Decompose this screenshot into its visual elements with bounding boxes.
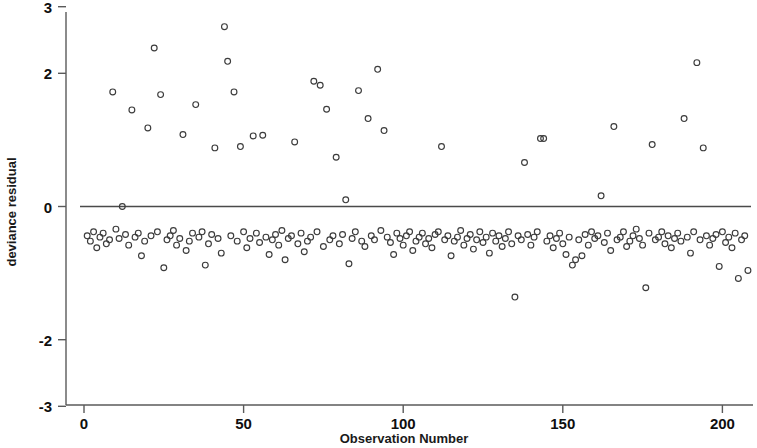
y-tick-label: -3	[39, 398, 52, 415]
x-tick-label: 200	[710, 415, 735, 432]
x-tick-label: 0	[80, 415, 88, 432]
scatter-plot-canvas: 320-2-3 050100150200 deviance residual O…	[0, 0, 757, 448]
plot-background	[0, 0, 757, 448]
x-axis-label: Observation Number	[340, 431, 469, 446]
x-tick-label: 150	[550, 415, 575, 432]
y-tick-label: 3	[44, 0, 52, 16]
y-tick-label: 2	[44, 65, 52, 82]
y-tick-label: 0	[44, 199, 52, 216]
deviance-residual-plot: 320-2-3 050100150200 deviance residual O…	[0, 0, 757, 448]
y-axis-label: deviance residual	[4, 157, 19, 266]
x-tick-label: 100	[391, 415, 416, 432]
x-tick-label: 50	[235, 415, 252, 432]
y-tick-label: -2	[39, 332, 52, 349]
